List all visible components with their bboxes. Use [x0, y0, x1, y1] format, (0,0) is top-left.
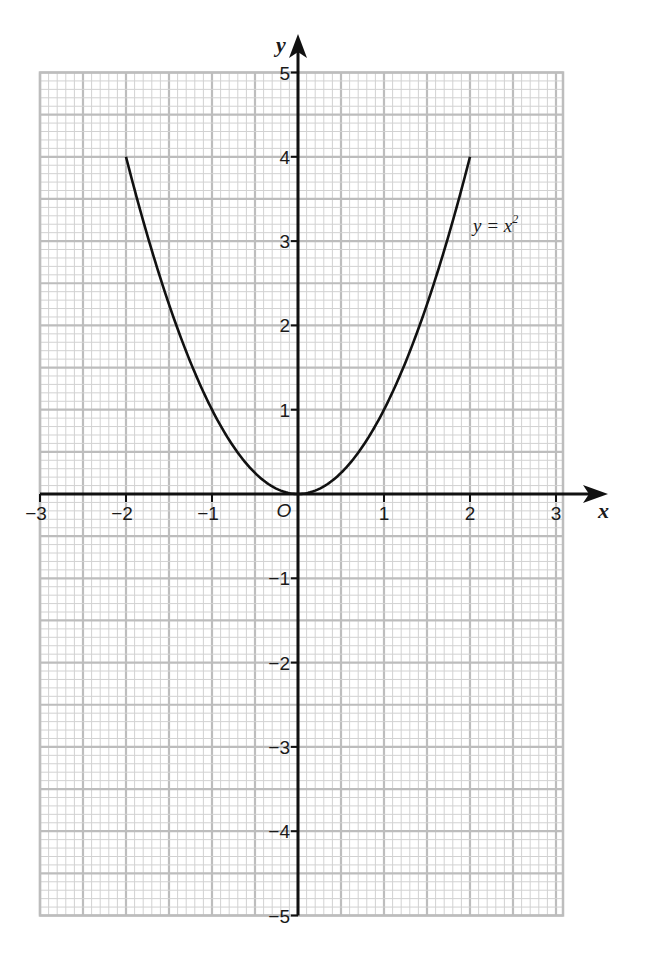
graph-y-equals-x-squared: −3−2−1123−5−4−3−2−112345Oxyy = x2 [0, 0, 646, 967]
y-axis-label: y [273, 32, 286, 57]
origin-label: O [277, 500, 292, 521]
y-tick-label: −5 [268, 906, 290, 927]
x-tick-label: 1 [379, 503, 390, 524]
y-tick-label: 5 [279, 63, 290, 84]
y-tick-label: 3 [279, 231, 290, 252]
y-tick-label: −3 [268, 737, 290, 758]
curve-equation-label: y = x2 [471, 212, 518, 236]
x-tick-label: −2 [111, 503, 133, 524]
x-tick-label: 3 [551, 503, 562, 524]
y-tick-label: −2 [268, 653, 290, 674]
x-tick-label: −3 [25, 503, 47, 524]
y-tick-label: −1 [268, 568, 290, 589]
y-tick-label: 1 [279, 400, 290, 421]
y-tick-label: 4 [279, 147, 290, 168]
y-tick-label: 2 [279, 315, 290, 336]
x-tick-label: −1 [197, 503, 219, 524]
x-axis-label: x [597, 498, 609, 523]
x-tick-label: 2 [465, 503, 476, 524]
y-tick-label: −4 [268, 821, 290, 842]
